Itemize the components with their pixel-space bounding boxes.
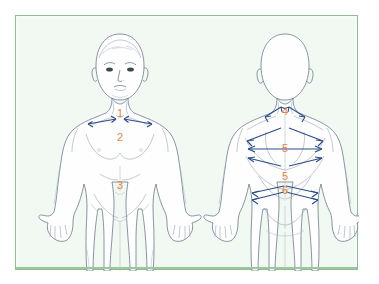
eye-left [106, 68, 113, 72]
anterior-figure: 1 2 3 [39, 34, 201, 271]
marker-label-1: 1 [117, 107, 123, 119]
head-outline [96, 34, 144, 100]
marker-label-3: 3 [117, 179, 123, 191]
eye-right [127, 68, 134, 72]
body-diagram-svg: 1 2 3 [16, 16, 359, 271]
marker-label-6: 6 [282, 184, 288, 196]
navel [115, 192, 125, 194]
diagram-panel: 1 2 3 [15, 15, 358, 270]
marker-label-2: 2 [117, 131, 123, 143]
posterior-figure: 4 5 5 6 [204, 34, 359, 271]
groin-line [112, 216, 128, 221]
marker-label-5-upper: 5 [282, 142, 288, 154]
marker-label-5-lower: 5 [282, 170, 288, 182]
screenshot-canvas: 1 2 3 [0, 0, 379, 284]
marker-label-4: 4 [282, 105, 288, 117]
head-back-outline [261, 34, 309, 100]
